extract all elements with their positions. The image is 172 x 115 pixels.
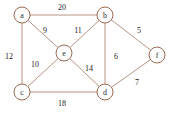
graph-node-b: b (97, 7, 113, 23)
graph-node-d: d (97, 84, 113, 100)
node-label-c: c (20, 88, 24, 97)
edge-weight-a-e: 9 (43, 26, 47, 35)
edge-weight-b-f: 5 (137, 26, 141, 35)
graph-edge-b-f (111, 20, 150, 50)
edge-weight-a-c: 12 (5, 52, 13, 61)
edge-layer (22, 15, 151, 92)
node-label-f: f (156, 51, 159, 60)
edge-weight-a-b: 20 (58, 3, 66, 12)
edge-weight-c-d: 18 (58, 99, 66, 108)
edge-weight-b-e: 11 (74, 26, 82, 35)
node-label-d: d (103, 88, 107, 97)
node-label-e: e (62, 49, 66, 58)
node-label-b: b (103, 11, 107, 20)
graph-node-e: e (56, 45, 72, 61)
edge-weight-b-d: 6 (114, 52, 118, 61)
graph-node-a: a (14, 7, 30, 23)
graph-edge-d-f (112, 60, 151, 88)
graph-figure: abefcd 2012911651018147 (0, 0, 172, 115)
edge-weight-c-e: 10 (31, 60, 39, 69)
edge-weight-d-e: 14 (85, 64, 93, 73)
edge-weight-d-f: 7 (135, 78, 139, 87)
graph-node-f: f (149, 47, 165, 63)
node-label-a: a (20, 11, 24, 20)
graph-canvas: abefcd 2012911651018147 (0, 0, 172, 115)
node-layer: abefcd (14, 7, 165, 100)
graph-node-c: c (14, 84, 30, 100)
